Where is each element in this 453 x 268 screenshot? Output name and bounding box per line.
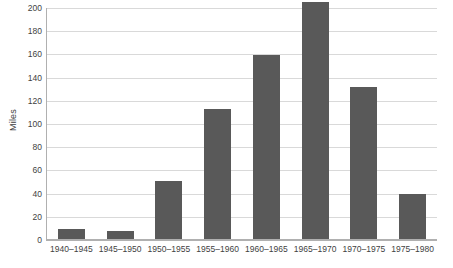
bar-slot: [96, 8, 145, 239]
y-axis-tick-labels: 020406080100120140160180200: [18, 8, 42, 240]
plot-area: [46, 8, 437, 240]
x-axis-tick-label: 1945–1950: [96, 244, 145, 254]
y-axis-tick-label: 180: [18, 26, 42, 36]
y-axis-tick-label: 120: [18, 96, 42, 106]
bar: [399, 194, 426, 239]
bar: [58, 229, 85, 239]
y-axis-tick-label: 100: [18, 119, 42, 129]
y-axis-title-label: Miles: [8, 109, 18, 131]
bar: [302, 2, 329, 239]
x-axis-tick-label: 1940–1945: [47, 244, 96, 254]
y-axis-tick-label: 160: [18, 49, 42, 59]
x-axis-tick-label: 1955–1960: [193, 244, 242, 254]
x-axis-tick-label: 1950–1955: [145, 244, 194, 254]
y-axis-tick-label: 20: [18, 212, 42, 222]
bar-slot: [291, 8, 340, 239]
y-axis-tick-label: 140: [18, 73, 42, 83]
bar-slot: [47, 8, 96, 239]
bar: [253, 55, 280, 239]
x-axis-line: [46, 239, 437, 240]
bar: [155, 181, 182, 239]
bar-slot: [145, 8, 194, 239]
y-axis-tick-label: 0: [18, 235, 42, 245]
y-axis-tick-label: 200: [18, 3, 42, 13]
bar-slot: [388, 8, 437, 239]
x-axis-tick-label: 1965–1970: [291, 244, 340, 254]
y-axis-tick-label: 60: [18, 165, 42, 175]
bars-layer: [47, 8, 437, 239]
x-axis-tick-label: 1970–1975: [340, 244, 389, 254]
bar-slot: [193, 8, 242, 239]
y-axis-tick-label: 80: [18, 142, 42, 152]
gridline: [46, 240, 437, 241]
bar-slot: [340, 8, 389, 239]
bar-slot: [242, 8, 291, 239]
x-axis-tick-label: 1975–1980: [388, 244, 437, 254]
bar-chart: Miles 020406080100120140160180200 1940–1…: [0, 0, 453, 268]
x-axis-tick-label: 1960–1965: [242, 244, 291, 254]
bar: [107, 231, 134, 239]
bar: [204, 109, 231, 239]
y-axis-tick-label: 40: [18, 189, 42, 199]
bar: [350, 87, 377, 239]
x-axis-tick-labels: 1940–19451945–19501950–19551955–19601960…: [47, 244, 437, 254]
